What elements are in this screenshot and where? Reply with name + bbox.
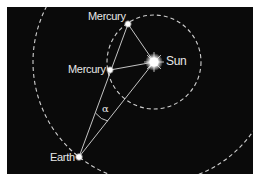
sun-label: Sun	[166, 55, 186, 67]
mercury-top-label: Mercury	[88, 11, 126, 22]
earth-to-mercury-top-line	[79, 24, 128, 157]
sun-icon	[144, 52, 164, 72]
angle-arc	[96, 113, 109, 121]
earth-to-sun-line	[79, 62, 154, 157]
mercury-left-icon	[106, 66, 114, 74]
mercury-left-label: Mercury	[68, 64, 106, 75]
orbit-diagram	[0, 0, 261, 178]
earth-icon	[75, 153, 83, 161]
angle-alpha-label: α	[102, 104, 109, 114]
earth-label: Earth	[50, 152, 75, 163]
